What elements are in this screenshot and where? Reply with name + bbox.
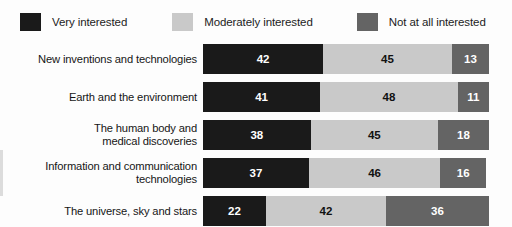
stacked-bar: 37 46 16 <box>203 158 489 188</box>
bar-segment-not-at-all-interested: 16 <box>440 158 486 188</box>
bar-segment-very-interested: 41 <box>203 82 320 112</box>
legend-swatch-very-interested <box>20 13 41 31</box>
legend-item-very-interested: Very interested <box>20 13 127 31</box>
stacked-bar: 22 42 36 <box>203 196 489 226</box>
bar-segment-very-interested: 22 <box>203 196 266 226</box>
bar-segment-not-at-all-interested: 13 <box>452 44 489 74</box>
chart-row: The universe, sky and stars 22 42 36 <box>0 196 512 226</box>
chart-row: Earth and the environment 41 48 11 <box>0 82 512 112</box>
legend-item-not-at-all-interested: Not at all interested <box>357 13 486 31</box>
chart-legend: Very interested Moderately interested No… <box>0 6 512 38</box>
bar-segment-very-interested: 38 <box>203 120 311 150</box>
chart-page: Very interested Moderately interested No… <box>0 0 512 227</box>
row-category-label: Earth and the environment <box>0 91 203 104</box>
chart-row: The human body and medical discoveries 3… <box>0 120 512 150</box>
bar-segment-not-at-all-interested: 36 <box>386 196 489 226</box>
bar-segment-moderately-interested: 42 <box>266 196 386 226</box>
row-category-label: The human body and medical discoveries <box>0 122 203 147</box>
legend-swatch-moderately-interested <box>172 13 193 31</box>
stacked-bar: 41 48 11 <box>203 82 489 112</box>
chart-row: New inventions and technologies 42 45 13 <box>0 44 512 74</box>
bar-segment-moderately-interested: 45 <box>323 44 452 74</box>
bar-segment-moderately-interested: 48 <box>320 82 457 112</box>
bar-segment-moderately-interested: 46 <box>309 158 441 188</box>
bar-segment-moderately-interested: 45 <box>311 120 438 150</box>
stacked-bar: 42 45 13 <box>203 44 489 74</box>
legend-label-very-interested: Very interested <box>52 16 127 28</box>
bar-segment-not-at-all-interested: 11 <box>458 82 489 112</box>
row-category-label: Information and communication technologi… <box>0 160 203 185</box>
row-category-label: The universe, sky and stars <box>0 205 203 218</box>
legend-item-moderately-interested: Moderately interested <box>172 13 313 31</box>
bar-segment-very-interested: 42 <box>203 44 323 74</box>
legend-swatch-not-at-all-interested <box>357 13 378 31</box>
legend-label-moderately-interested: Moderately interested <box>204 16 313 28</box>
row-category-label: New inventions and technologies <box>0 53 203 66</box>
chart-row: Information and communication technologi… <box>0 158 512 188</box>
chart-rows: New inventions and technologies 42 45 13… <box>0 44 512 227</box>
legend-label-not-at-all-interested: Not at all interested <box>389 16 486 28</box>
bar-segment-very-interested: 37 <box>203 158 309 188</box>
bar-segment-not-at-all-interested: 18 <box>438 120 489 150</box>
stacked-bar: 38 45 18 <box>203 120 489 150</box>
